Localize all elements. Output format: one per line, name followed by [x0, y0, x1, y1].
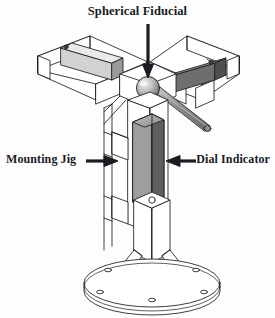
- label-dial-indicator: Dial Indicator: [196, 152, 270, 167]
- circular-base-plate: [84, 259, 220, 315]
- label-mounting-jig: Mounting Jig: [6, 152, 76, 167]
- dial-indicator-leader-arrow: [166, 156, 196, 167]
- page-title: Spherical Fiducial: [88, 4, 187, 19]
- mounting-jig-leader-arrow: [86, 156, 118, 167]
- lower-column: [134, 192, 170, 262]
- technical-diagram: Spherical Fiducial Mounting Jig Dial Ind…: [0, 0, 275, 318]
